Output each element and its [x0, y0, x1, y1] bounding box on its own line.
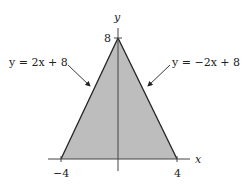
y-tick-label-8: 8: [104, 32, 111, 45]
right-arrow-icon: [148, 65, 170, 86]
triangle-region-diagram: y x 8 −4 4 y = 2x + 8 y = −2x + 8: [0, 0, 246, 189]
shaded-region: [61, 38, 177, 159]
left-line-equation: y = 2x + 8: [8, 56, 68, 69]
right-line-equation: y = −2x + 8: [171, 56, 240, 69]
x-tick-label-neg4: −4: [53, 167, 69, 180]
x-tick-label-4: 4: [174, 167, 181, 180]
y-axis-label: y: [113, 11, 121, 24]
left-arrow-icon: [68, 65, 90, 86]
x-axis-label: x: [195, 153, 202, 166]
